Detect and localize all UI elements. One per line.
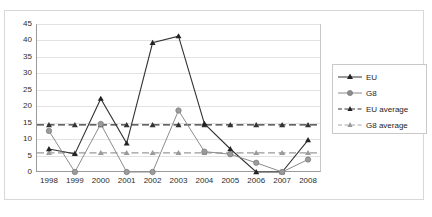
data-point-marker: [72, 169, 77, 174]
legend-label-eu-average: EU average: [366, 105, 408, 114]
data-point-marker: [46, 128, 51, 133]
series-line-g8: [49, 111, 308, 173]
data-point-marker: [279, 169, 284, 174]
legend-item-g8-average[interactable]: G8 average: [337, 117, 423, 133]
legend-label-eu: EU: [366, 73, 377, 82]
legend-key-eu: [337, 71, 363, 83]
data-point-marker: [46, 146, 52, 151]
legend-key-eu-average: [337, 103, 363, 115]
legend-item-eu-average[interactable]: EU average: [337, 101, 423, 117]
data-point-marker: [254, 160, 259, 165]
chart-screenshot: 051015202530354045 199819992000200120022…: [0, 0, 432, 217]
data-point-marker: [202, 149, 207, 154]
legend-label-g8: G8: [366, 89, 377, 98]
legend-item-eu[interactable]: EU: [337, 69, 423, 85]
data-point-marker: [98, 121, 103, 126]
data-point-marker: [305, 157, 310, 162]
data-point-marker: [176, 108, 181, 113]
data-point-marker: [150, 169, 155, 174]
data-point-marker: [176, 33, 182, 38]
legend-key-g8-average: [337, 119, 363, 131]
legend-item-g8[interactable]: G8: [337, 85, 423, 101]
data-point-marker: [98, 96, 104, 101]
data-point-marker: [201, 121, 207, 126]
chart-legend: EU G8 EU average: [332, 64, 427, 134]
data-point-marker: [228, 152, 233, 157]
data-point-marker: [124, 169, 129, 174]
legend-label-g8-average: G8 average: [366, 121, 408, 130]
data-point-marker: [305, 137, 311, 142]
legend-key-g8: [337, 87, 363, 99]
data-point-marker: [124, 140, 130, 145]
